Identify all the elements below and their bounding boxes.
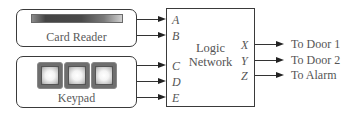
keypad-key-icon (91, 62, 117, 89)
keypad-device: Keypad (16, 56, 137, 108)
arrow-d-icon (158, 78, 166, 84)
wire-e (137, 97, 159, 98)
arrow-a-icon (158, 16, 166, 22)
arrow-x-icon (276, 41, 284, 47)
input-port-d: D (172, 76, 181, 88)
output-port-y: Y (241, 55, 248, 67)
output-label-door-1: To Door 1 (291, 38, 340, 50)
wire-y (255, 60, 277, 61)
wire-b (137, 35, 159, 36)
keypad-key-icon (37, 62, 63, 89)
logic-network-block: A B C D E Logic Network X Y Z (166, 8, 255, 107)
wire-z (255, 75, 277, 76)
arrow-b-icon (158, 32, 166, 38)
keypad-key-icon (64, 62, 90, 89)
wire-a (137, 19, 159, 20)
card-reader-device: Card Reader (16, 9, 137, 47)
output-port-x: X (241, 39, 248, 51)
card-slot-icon (31, 14, 123, 23)
input-port-a: A (172, 14, 179, 26)
arrow-y-icon (276, 57, 284, 63)
wire-x (255, 44, 277, 45)
arrow-z-icon (276, 72, 284, 78)
card-reader-label: Card Reader (17, 30, 136, 45)
output-port-z: Z (241, 70, 248, 82)
keypad-label: Keypad (17, 91, 136, 106)
wire-d (137, 81, 159, 82)
output-label-alarm: To Alarm (291, 69, 337, 81)
arrow-c-icon (158, 62, 166, 68)
arrow-e-icon (158, 94, 166, 100)
input-port-e: E (172, 92, 179, 104)
output-label-door-2: To Door 2 (291, 54, 340, 66)
wire-c (137, 65, 159, 66)
